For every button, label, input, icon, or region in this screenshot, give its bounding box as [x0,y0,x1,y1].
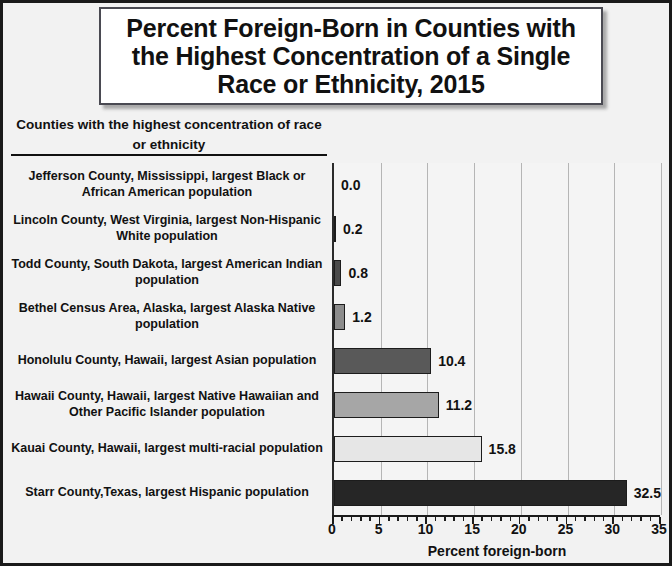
x-axis-line [332,515,660,517]
chart-title-box: Percent Foreign-Born in Counties with th… [99,7,603,105]
page-title: Percent Foreign-Born in Counties with th… [107,14,595,98]
x-tick-minor [491,517,493,521]
bar-row: 0.2 [334,207,661,251]
bar-value-label: 0.8 [348,265,367,281]
chart-figure: Percent Foreign-Born in Counties with th… [0,0,672,566]
x-tick-minor [528,517,530,521]
category-axis-heading: Counties with the highest concentration … [11,115,327,156]
category-label: Bethel Census Area, Alaska, largest Alas… [7,295,327,339]
bar-value-label: 1.2 [352,309,371,325]
bar [334,480,627,506]
bar-value-label: 11.2 [446,397,472,413]
x-axis-title: Percent foreign-born [332,543,662,559]
category-label: Hawaii County, Hawaii, largest Native Ha… [7,383,327,427]
bar [334,304,345,330]
x-tick-label: 20 [511,521,527,537]
x-tick-minor [640,517,642,521]
x-tick-minor [622,517,624,521]
category-label: Starr County,Texas, largest Hispanic pop… [7,471,327,515]
plot-area: 0.00.20.81.210.411.215.832.5 [332,163,661,515]
x-tick-label: 5 [375,521,383,537]
x-tick-minor [444,517,446,521]
x-tick-minor [351,517,353,521]
bar [334,348,431,374]
x-tick-minor [369,517,371,521]
x-tick-label: 30 [604,521,620,537]
bar-row: 15.8 [334,427,661,471]
x-tick-minor [360,517,362,521]
category-label: Lincoln County, West Virginia, largest N… [7,207,327,251]
category-axis-heading-text: Counties with the highest concentration … [11,115,327,156]
x-tick-minor [538,517,540,521]
bar-value-label: 10.4 [438,353,465,369]
category-label: Kauai County, Hawaii, largest multi-raci… [7,427,327,471]
bar-row: 11.2 [334,383,661,427]
bar-value-label: 32.5 [634,485,661,501]
x-tick-minor [547,517,549,521]
x-tick-minor [407,517,409,521]
bar-value-label: 15.8 [489,441,516,457]
bar [334,260,341,286]
bar-row: 1.2 [334,295,661,339]
category-label: Todd County, South Dakota, largest Ameri… [7,251,327,295]
x-tick-label: 15 [464,521,480,537]
category-label: Jefferson County, Mississippi, largest B… [7,163,327,207]
bar [334,392,439,418]
bar [334,436,482,462]
x-tick-label: 0 [328,521,336,537]
x-tick-minor [435,517,437,521]
bar [334,216,336,242]
x-tick-minor [575,517,577,521]
bar-row: 0.0 [334,163,661,207]
x-tick-minor [594,517,596,521]
bar-row: 32.5 [334,471,661,515]
x-tick-minor [341,517,343,521]
x-tick-minor [481,517,483,521]
bar-row: 10.4 [334,339,661,383]
bar-value-label: 0.0 [341,177,360,193]
bar-value-label: 0.2 [343,221,362,237]
x-tick-label: 35 [651,521,667,537]
gridline [661,163,662,515]
x-tick-minor [584,517,586,521]
x-tick-label: 10 [418,521,434,537]
x-tick-minor [631,517,633,521]
bar-row: 0.8 [334,251,661,295]
x-tick-minor [397,517,399,521]
category-label: Honolulu County, Hawaii, largest Asian p… [7,339,327,383]
x-tick-minor [388,517,390,521]
x-tick-minor [453,517,455,521]
x-tick-label: 25 [558,521,574,537]
x-tick-minor [500,517,502,521]
